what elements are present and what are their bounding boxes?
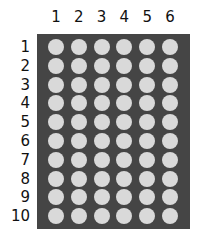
well-circle xyxy=(116,208,132,224)
well-circle xyxy=(71,171,87,187)
row-label: 2 xyxy=(0,58,30,74)
well-circle xyxy=(116,133,132,149)
well-circle xyxy=(71,208,87,224)
row-label: 10 xyxy=(0,208,30,224)
well-circle xyxy=(139,208,155,224)
well-circle xyxy=(116,189,132,205)
well-circle xyxy=(71,189,87,205)
well-circle xyxy=(48,171,64,187)
well-circle xyxy=(162,208,178,224)
well-circle xyxy=(139,58,155,74)
row-label: 5 xyxy=(0,114,30,130)
well-circle xyxy=(162,114,178,130)
well-circle xyxy=(162,58,178,74)
well-circle xyxy=(48,114,64,130)
column-label: 6 xyxy=(162,8,178,26)
well-circle xyxy=(94,133,110,149)
well-circle xyxy=(48,58,64,74)
well-circle xyxy=(48,208,64,224)
well-circle xyxy=(139,152,155,168)
row-label: 3 xyxy=(0,77,30,93)
well-circle xyxy=(48,133,64,149)
well-circle xyxy=(162,171,178,187)
well-circle xyxy=(48,77,64,93)
well-circle xyxy=(139,189,155,205)
well-circle xyxy=(48,189,64,205)
plate-background xyxy=(37,34,190,229)
well-circle xyxy=(94,58,110,74)
well-circle xyxy=(162,95,178,111)
well-circle xyxy=(139,133,155,149)
well-circle xyxy=(48,39,64,55)
well-circle xyxy=(48,95,64,111)
well-circle xyxy=(162,152,178,168)
well-circle xyxy=(94,95,110,111)
well-circle xyxy=(162,189,178,205)
row-label: 7 xyxy=(0,152,30,168)
well-circle xyxy=(48,152,64,168)
row-label: 1 xyxy=(0,39,30,55)
well-circle xyxy=(94,208,110,224)
row-label: 8 xyxy=(0,171,30,187)
well-circle xyxy=(71,95,87,111)
well-circle xyxy=(139,39,155,55)
well-circle xyxy=(71,133,87,149)
well-circle xyxy=(71,77,87,93)
well-circle xyxy=(94,171,110,187)
well-circle xyxy=(162,39,178,55)
column-label: 2 xyxy=(71,8,87,26)
well-circle xyxy=(162,77,178,93)
well-circle xyxy=(94,114,110,130)
well-circle xyxy=(162,133,178,149)
column-label: 5 xyxy=(139,8,155,26)
well-circle xyxy=(71,39,87,55)
well-circle xyxy=(116,95,132,111)
row-label: 6 xyxy=(0,133,30,149)
well-circle xyxy=(139,114,155,130)
well-circle xyxy=(94,39,110,55)
well-circle xyxy=(94,152,110,168)
well-circle xyxy=(116,77,132,93)
well-circle xyxy=(116,114,132,130)
row-label: 4 xyxy=(0,95,30,111)
well-circle xyxy=(116,58,132,74)
well-circle xyxy=(139,171,155,187)
well-circle xyxy=(71,114,87,130)
well-circle xyxy=(94,189,110,205)
well-circle xyxy=(94,77,110,93)
well-circle xyxy=(139,77,155,93)
well-circle xyxy=(71,152,87,168)
row-label: 9 xyxy=(0,189,30,205)
well-circle xyxy=(116,171,132,187)
well-circle xyxy=(116,152,132,168)
well-circle xyxy=(116,39,132,55)
well-circle xyxy=(71,58,87,74)
column-label: 4 xyxy=(116,8,132,26)
well-circle xyxy=(139,95,155,111)
column-label: 1 xyxy=(48,8,64,26)
column-label: 3 xyxy=(94,8,110,26)
